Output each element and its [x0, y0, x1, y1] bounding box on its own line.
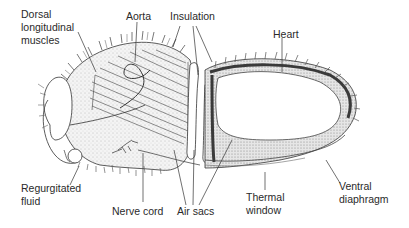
label-heart: Heart — [273, 28, 299, 41]
label-nerve-cord: Nerve cord — [112, 205, 163, 218]
regurgitated-fluid-droplet — [68, 149, 82, 163]
label-ventral-diaphragm: Ventral diaphragm — [339, 180, 389, 206]
label-regurgitated-fluid: Regurgitated fluid — [21, 182, 81, 208]
label-air-sacs: Air sacs — [177, 205, 214, 218]
label-insulation: Insulation — [170, 10, 215, 23]
anatomy-diagram: Dorsal longitudinal muscles Aorta Insula… — [0, 0, 409, 228]
label-aorta: Aorta — [126, 10, 151, 23]
label-thermal-window: Thermal window — [246, 191, 285, 217]
abdomen — [205, 52, 360, 168]
label-dorsal-longitudinal-muscles: Dorsal longitudinal muscles — [21, 8, 74, 47]
